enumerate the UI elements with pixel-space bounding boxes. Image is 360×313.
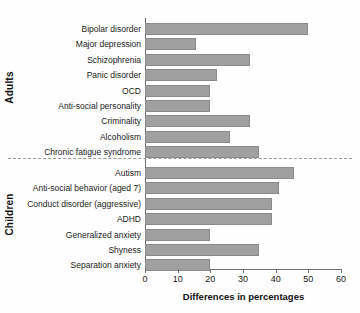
- bar-row: Anti-social behavior (aged 7): [145, 181, 341, 196]
- category-label: Bipolar disorder: [2, 22, 141, 37]
- bar-row: Generalized anxiety: [145, 228, 341, 243]
- category-label: Anti-social behavior (aged 7): [2, 181, 141, 196]
- x-axis-tick: [243, 269, 244, 273]
- bar: [145, 131, 230, 143]
- bar: [145, 198, 272, 210]
- bar-row: Shyness: [145, 243, 341, 258]
- x-axis-tick: [308, 269, 309, 273]
- x-axis-tick: [341, 269, 342, 273]
- plot-area: Bipolar disorderMajor depressionSchizoph…: [145, 18, 341, 268]
- x-axis-tick: [276, 269, 277, 273]
- category-label: Schizophrenia: [2, 53, 141, 68]
- category-label: OCD: [2, 84, 141, 99]
- category-label: Anti-social personality: [2, 99, 141, 114]
- x-axis-tick: [210, 269, 211, 273]
- bar-row: Panic disorder: [145, 68, 341, 83]
- category-label: Autism: [2, 166, 141, 181]
- bar: [145, 182, 279, 194]
- bar-row: Bipolar disorder: [145, 22, 341, 37]
- bar: [145, 244, 259, 256]
- bar-chart: Adults Children Bipolar disorderMajor de…: [0, 0, 360, 313]
- bar: [145, 213, 272, 225]
- bar-row: OCD: [145, 84, 341, 99]
- x-axis-title: Differences in percentages: [145, 291, 342, 302]
- x-axis-tick-label: 30: [231, 274, 255, 284]
- x-axis-tick: [178, 269, 179, 273]
- group-divider-dashed-line: [8, 158, 352, 159]
- x-axis-tick: [145, 269, 146, 273]
- bar-row: Anti-social personality: [145, 99, 341, 114]
- bar: [145, 85, 210, 97]
- bar: [145, 69, 217, 81]
- category-label: Alcoholism: [2, 130, 141, 145]
- x-axis-tick-label: 50: [296, 274, 320, 284]
- bar: [145, 146, 259, 158]
- bar-row: Alcoholism: [145, 130, 341, 145]
- x-axis-tick-label: 0: [133, 274, 157, 284]
- bar: [145, 54, 250, 66]
- category-label: Shyness: [2, 243, 141, 258]
- bar: [145, 167, 294, 179]
- bar-row: Autism: [145, 166, 341, 181]
- bar-row: Major depression: [145, 37, 341, 52]
- category-label: Conduct disorder (aggressive): [2, 197, 141, 212]
- x-axis-tick-label: 60: [329, 274, 353, 284]
- category-label: Major depression: [2, 37, 141, 52]
- bar: [145, 229, 210, 241]
- bar-row: Schizophrenia: [145, 53, 341, 68]
- category-label: Generalized anxiety: [2, 228, 141, 243]
- bar-row: Criminality: [145, 114, 341, 129]
- x-axis-tick-label: 20: [198, 274, 222, 284]
- bar: [145, 38, 196, 50]
- category-label: Panic disorder: [2, 68, 141, 83]
- bar: [145, 100, 210, 112]
- category-label: Criminality: [2, 114, 141, 129]
- x-axis-tick-label: 40: [264, 274, 288, 284]
- bar: [145, 115, 250, 127]
- bar-row: Conduct disorder (aggressive): [145, 197, 341, 212]
- category-label: Separation anxiety: [2, 258, 141, 273]
- category-label: ADHD: [2, 212, 141, 227]
- bar-row: ADHD: [145, 212, 341, 227]
- x-axis-tick-label: 10: [166, 274, 190, 284]
- bar: [145, 23, 308, 35]
